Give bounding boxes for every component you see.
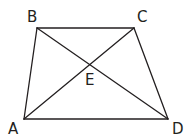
diagonal-bd: [37, 28, 168, 119]
label-e: E: [85, 71, 94, 89]
segment-ab: [24, 28, 37, 119]
segment-cd: [134, 28, 168, 119]
label-b: B: [27, 8, 37, 26]
label-c: C: [137, 8, 147, 26]
trapezoid-diagram: B C A D E: [0, 0, 192, 140]
label-a: A: [8, 120, 19, 138]
diagram-canvas: B C A D E: [0, 0, 192, 140]
label-d: D: [172, 120, 184, 138]
diagonal-ac: [24, 28, 134, 119]
